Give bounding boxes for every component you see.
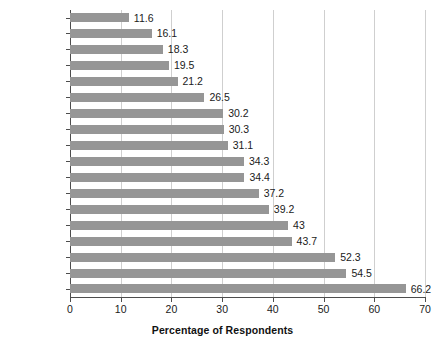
x-axis-title: Percentage of Respondents bbox=[0, 324, 445, 336]
bar-value-label: 26.5 bbox=[209, 89, 229, 105]
bar bbox=[70, 93, 204, 102]
bar-value-label: 43.7 bbox=[297, 233, 317, 249]
bar-value-label: 30.3 bbox=[229, 121, 249, 137]
bar-row: Chile11.6 bbox=[70, 10, 425, 26]
bar-value-label: 37.2 bbox=[264, 185, 284, 201]
bar bbox=[70, 269, 346, 278]
bar-value-label: 54.5 bbox=[351, 265, 371, 281]
bar-row: Guatemala18.3 bbox=[70, 42, 425, 58]
x-axis-tick-label: 50 bbox=[318, 303, 330, 316]
bar-chart: Chile11.6Ecuador16.1Guatemala18.3Argenti… bbox=[0, 0, 445, 345]
bar bbox=[70, 173, 244, 182]
x-axis-tick bbox=[324, 297, 325, 302]
bar-value-label: 31.1 bbox=[233, 137, 253, 153]
bar bbox=[70, 45, 163, 54]
bar-value-label: 52.3 bbox=[340, 249, 360, 265]
x-axis-tick-label: 60 bbox=[368, 303, 380, 316]
bar-value-label: 34.4 bbox=[249, 169, 269, 185]
x-axis-tick bbox=[222, 297, 223, 302]
bar-value-label: 66.2 bbox=[411, 281, 431, 297]
bar bbox=[70, 284, 406, 293]
x-axis-tick-label: 10 bbox=[115, 303, 127, 316]
x-axis-tick-label: 0 bbox=[67, 303, 73, 316]
x-axis-tick bbox=[121, 297, 122, 302]
bar-row: Brazil30.2 bbox=[70, 106, 425, 122]
bar-row: Venezuela34.3 bbox=[70, 154, 425, 170]
x-axis-line bbox=[70, 297, 426, 298]
bar-value-label: 11.6 bbox=[134, 10, 154, 26]
bar-value-label: 18.3 bbox=[168, 41, 188, 57]
bar bbox=[70, 253, 335, 262]
bar-value-label: 21.2 bbox=[183, 73, 203, 89]
bar-row: Peru21.2 bbox=[70, 74, 425, 90]
x-axis-tick bbox=[273, 297, 274, 302]
bar-row: Bolivia31.1 bbox=[70, 138, 425, 154]
x-axis-tick bbox=[425, 297, 426, 302]
bar-value-label: 30.2 bbox=[228, 105, 248, 121]
x-axis-tick-label: 40 bbox=[267, 303, 279, 316]
bar-row: Costa Rica52.3 bbox=[70, 249, 425, 265]
bar bbox=[70, 77, 178, 86]
bar bbox=[70, 29, 152, 38]
bar-row: Paraguay39.2 bbox=[70, 201, 425, 217]
bar-row: Honduras43.7 bbox=[70, 233, 425, 249]
bar-value-label: 43 bbox=[293, 217, 305, 233]
bar-row: Nicaragua43 bbox=[70, 217, 425, 233]
bar-value-label: 34.3 bbox=[249, 153, 269, 169]
bar bbox=[70, 237, 292, 246]
bar-row: Ecuador16.1 bbox=[70, 26, 425, 42]
plot-area: Chile11.6Ecuador16.1Guatemala18.3Argenti… bbox=[70, 10, 425, 297]
bar bbox=[70, 13, 129, 22]
bar-row: El Salvador34.4 bbox=[70, 169, 425, 185]
x-axis-tick bbox=[374, 297, 375, 302]
x-axis-tick-label: 20 bbox=[166, 303, 178, 316]
bar bbox=[70, 141, 228, 150]
bar-row: Mexico26.5 bbox=[70, 90, 425, 106]
bar bbox=[70, 61, 169, 70]
bar bbox=[70, 125, 224, 134]
bar-value-label: 16.1 bbox=[157, 25, 177, 41]
x-axis-tick bbox=[70, 297, 71, 302]
bar-row: Colombia37.2 bbox=[70, 185, 425, 201]
bar bbox=[70, 205, 269, 214]
bar bbox=[70, 221, 288, 230]
bar-row: Dom. Rep.54.5 bbox=[70, 265, 425, 281]
bar-row: Argentina19.5 bbox=[70, 58, 425, 74]
x-axis-tick-label: 70 bbox=[419, 303, 431, 316]
bar bbox=[70, 109, 223, 118]
x-axis-tick bbox=[171, 297, 172, 302]
gridline-70 bbox=[425, 10, 426, 297]
bar-row: Uruguay66.2 bbox=[70, 281, 425, 297]
x-axis-tick-label: 30 bbox=[216, 303, 228, 316]
bar bbox=[70, 157, 244, 166]
bar-value-label: 19.5 bbox=[174, 57, 194, 73]
bar-value-label: 39.2 bbox=[274, 201, 294, 217]
bar bbox=[70, 189, 259, 198]
bar-row: Panama30.3 bbox=[70, 122, 425, 138]
